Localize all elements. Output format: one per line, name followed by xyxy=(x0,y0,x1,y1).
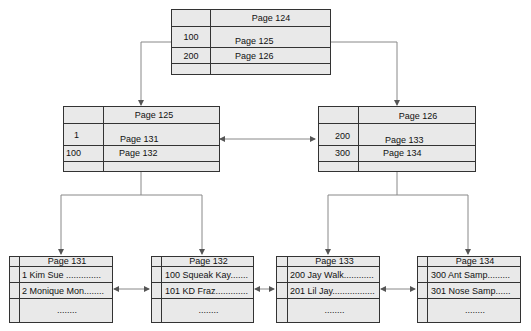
node-key: 100 xyxy=(172,32,210,42)
leaf-record: 2 Monique Mon........ xyxy=(22,286,104,296)
leaf-node-page-133: Page 133 200 Jay Walk............ 201 Li… xyxy=(276,256,380,323)
node-header: Page 124 xyxy=(211,13,331,23)
node-pointer: Page 132 xyxy=(119,148,158,158)
leaf-node-page-134: Page 134 300 Ant Samp......... 301 Nose … xyxy=(417,256,521,323)
node-key: 200 xyxy=(335,131,350,141)
intermediate-node-page-126: Page 126 200 Page 133 300 Page 134 xyxy=(318,106,476,172)
leaf-record: 301 Nose Samp...... xyxy=(431,286,511,296)
node-key: 300 xyxy=(335,148,350,158)
node-header: Page 132 xyxy=(162,256,255,266)
node-header: Page 133 xyxy=(288,256,381,266)
node-key: 100 xyxy=(66,148,81,158)
leaf-record: 1 Kim Sue .............. xyxy=(22,270,101,280)
node-header: Page 131 xyxy=(20,256,114,266)
node-pointer: Page 134 xyxy=(383,148,422,158)
node-pointer: Page 125 xyxy=(235,36,274,46)
node-pointer: Page 133 xyxy=(385,135,424,145)
leaf-record: 100 Squeak Kay....... xyxy=(165,270,248,280)
leaf-more: ........ xyxy=(20,305,114,315)
node-key: 200 xyxy=(172,51,210,61)
leaf-more: ........ xyxy=(288,305,381,315)
leaf-record: 101 KD Fraz............. xyxy=(165,286,248,296)
leaf-more: ........ xyxy=(162,305,255,315)
intermediate-node-page-125: Page 125 1 Page 131 100 Page 132 xyxy=(63,106,220,172)
leaf-node-page-132: Page 132 100 Squeak Kay....... 101 KD Fr… xyxy=(151,256,254,323)
node-header: Page 125 xyxy=(104,110,204,120)
node-pointer: Page 131 xyxy=(120,134,159,144)
node-header: Page 134 xyxy=(428,256,522,266)
node-key: 1 xyxy=(74,130,79,140)
root-node-page-124: Page 124 100 Page 125 200 Page 126 xyxy=(171,9,331,75)
leaf-record: 201 Lil Jay................. xyxy=(290,286,375,296)
node-pointer: Page 126 xyxy=(235,51,274,61)
node-header: Page 126 xyxy=(359,111,477,121)
leaf-more: ........ xyxy=(428,305,522,315)
leaf-record: 300 Ant Samp......... xyxy=(431,270,510,280)
leaf-record: 200 Jay Walk............ xyxy=(290,270,374,280)
leaf-node-page-131: Page 131 1 Kim Sue .............. 2 Moni… xyxy=(9,256,113,323)
